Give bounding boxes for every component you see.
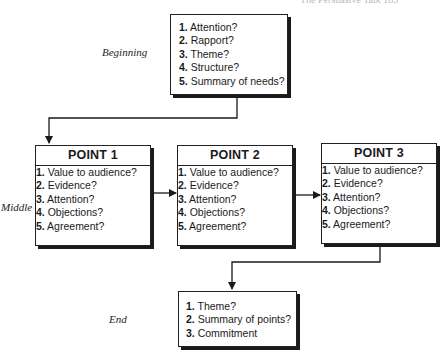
list-item: 1. Theme?	[186, 300, 296, 313]
list-item: 2. Evidence?	[36, 179, 150, 192]
list-item: 5. Agreement?	[36, 220, 150, 233]
stage-label-beginning: Beginning	[102, 46, 147, 58]
list-item: 5. Summary of needs?	[179, 75, 287, 88]
list-item: 1. Attention?	[179, 21, 287, 34]
list-item: 5. Agreement?	[178, 220, 292, 233]
list-item: 4. Objections?	[178, 206, 292, 219]
list-item: 3. Attention?	[322, 191, 436, 204]
stage-label-end: End	[109, 313, 127, 325]
point2-checklist: 1. Value to audience? 2. Evidence? 3. At…	[178, 166, 292, 233]
stage-label-middle: Middle	[1, 201, 32, 213]
end-checklist: 1. Theme? 2. Summary of points? 3. Commi…	[179, 292, 296, 340]
beginning-checklist: 1. Attention? 2. Rapport? 3. Theme? 4. S…	[171, 15, 287, 88]
list-item: 1. Value to audience?	[36, 166, 150, 179]
point1-title: POINT 1	[36, 146, 150, 166]
list-item: 4. Objections?	[36, 206, 150, 219]
point2-title: POINT 2	[178, 146, 292, 166]
list-item: 1. Value to audience?	[322, 164, 436, 177]
point1-box: POINT 1 1. Value to audience? 2. Evidenc…	[35, 145, 151, 246]
point2-box: POINT 2 1. Value to audience? 2. Evidenc…	[177, 145, 293, 246]
point3-box: POINT 3 1. Value to audience? 2. Evidenc…	[321, 143, 437, 244]
list-item: 2. Evidence?	[178, 179, 292, 192]
list-item: 3. Commitment	[186, 327, 296, 340]
list-item: 3. Attention?	[178, 193, 292, 206]
list-item: 3. Attention?	[36, 193, 150, 206]
list-item: 2. Evidence?	[322, 177, 436, 190]
list-item: 4. Structure?	[179, 61, 287, 74]
beginning-box: 1. Attention? 2. Rapport? 3. Theme? 4. S…	[170, 14, 288, 95]
point3-checklist: 1. Value to audience? 2. Evidence? 3. At…	[322, 164, 436, 231]
list-item: 4. Objections?	[322, 204, 436, 217]
point1-checklist: 1. Value to audience? 2. Evidence? 3. At…	[36, 166, 150, 233]
list-item: 1. Value to audience?	[178, 166, 292, 179]
list-item: 3. Theme?	[179, 48, 287, 61]
list-item: 2. Rapport?	[179, 34, 287, 47]
connector-point3-to-end	[232, 246, 380, 289]
end-box: 1. Theme? 2. Summary of points? 3. Commi…	[178, 291, 297, 347]
list-item: 5. Agreement?	[322, 218, 436, 231]
list-item: 2. Summary of points?	[186, 313, 296, 326]
connector-beginning-to-point1	[49, 97, 237, 143]
point3-title: POINT 3	[322, 144, 436, 164]
